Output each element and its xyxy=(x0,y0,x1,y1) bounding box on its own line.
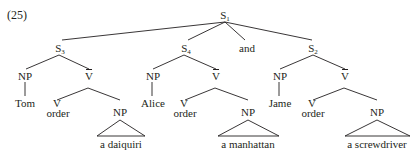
example-number: (25) xyxy=(7,9,27,21)
verb-word: order xyxy=(173,107,196,119)
conjunction-and: and xyxy=(239,42,255,54)
clause-node-s3: S3 xyxy=(55,42,65,58)
object-np-node: NP xyxy=(113,106,127,118)
tree-branches xyxy=(0,0,416,154)
subject-np-node: NP xyxy=(18,70,32,82)
object-phrase: a daiquiri xyxy=(100,138,142,150)
subject-np-node: NP xyxy=(146,70,160,82)
verb-word: order xyxy=(301,107,324,119)
subject-np-node: NP xyxy=(273,70,287,82)
subject-word: Jame xyxy=(269,97,292,109)
object-np-node: NP xyxy=(370,106,384,118)
subject-word: Alice xyxy=(141,97,165,109)
clause-node-s2: S2 xyxy=(308,42,318,58)
clause-node-s4: S4 xyxy=(181,42,191,58)
vbar-node: V xyxy=(212,70,220,82)
verb-word: order xyxy=(46,107,69,119)
vbar-node: V xyxy=(341,70,349,82)
root-node: S1 xyxy=(220,9,230,25)
object-phrase: a manhattan xyxy=(221,138,274,150)
object-phrase: a screwdriver xyxy=(347,138,407,150)
subject-word: Tom xyxy=(15,97,35,109)
object-np-node: NP xyxy=(241,106,255,118)
vbar-node: V xyxy=(85,70,93,82)
